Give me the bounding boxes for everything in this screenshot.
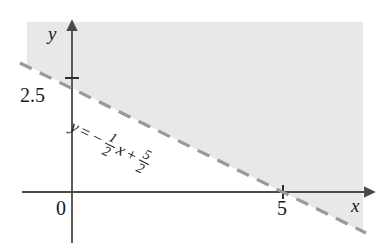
x-tick-label-5: 5 — [277, 198, 287, 218]
y-axis-label: y — [48, 24, 56, 43]
x-axis-label: x — [351, 196, 359, 215]
origin-label: 0 — [56, 198, 66, 218]
coordinate-plane-figure: y x 2.5 5 0 y = − 1 2 x + 5 2 — [0, 0, 389, 250]
y-tick-label-2point5: 2.5 — [20, 85, 45, 105]
